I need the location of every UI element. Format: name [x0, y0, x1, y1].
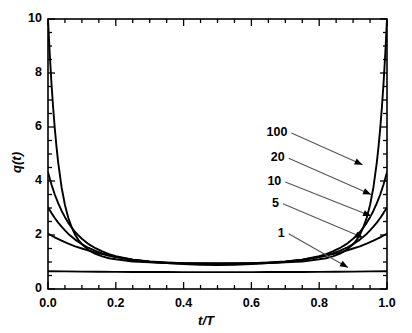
curve-1 — [48, 271, 387, 272]
curve-20 — [48, 172, 387, 263]
x-tick-label: 0.2 — [102, 296, 130, 310]
x-tick-label: 0.0 — [34, 296, 62, 310]
series-label-20: 20 — [245, 150, 285, 164]
x-axis-ticks — [48, 19, 387, 289]
x-tick-label: 0.4 — [170, 296, 198, 310]
data-curves — [48, 19, 387, 272]
leader-arrowhead-1 — [339, 261, 348, 268]
series-label-10: 10 — [241, 174, 281, 188]
y-tick-label: 4 — [10, 173, 42, 187]
leader-arrowhead-20 — [362, 188, 371, 194]
y-axis-ticks — [48, 19, 387, 289]
leader-arrowhead-10 — [362, 210, 371, 216]
series-label-1: 1 — [245, 226, 285, 240]
leader-arrowhead-100 — [354, 159, 363, 165]
y-tick-label: 8 — [10, 65, 42, 79]
x-tick-label: 0.6 — [237, 296, 265, 310]
chart-figure — [0, 0, 412, 333]
x-axis-label-text: t/T — [198, 313, 214, 328]
y-tick-label: 0 — [10, 281, 42, 295]
y-tick-label: 10 — [10, 11, 42, 25]
y-tick-label: 6 — [10, 119, 42, 133]
leader-line-100 — [291, 133, 362, 165]
x-tick-label: 1.0 — [373, 296, 401, 310]
series-label-5: 5 — [239, 196, 279, 210]
x-tick-label: 0.8 — [305, 296, 333, 310]
y-axis-label-text: q(t) — [9, 152, 24, 173]
series-label-100: 100 — [247, 125, 287, 139]
y-tick-label: 2 — [10, 227, 42, 241]
x-axis-label: t/T — [0, 313, 412, 328]
leader-line-10 — [285, 182, 371, 216]
plot-frame — [48, 19, 387, 289]
